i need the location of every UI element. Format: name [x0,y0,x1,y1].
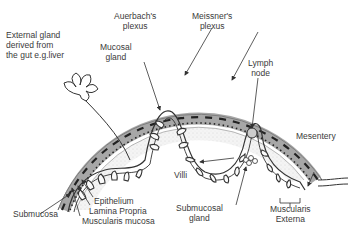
label-mesentery: Mesentery [296,131,336,141]
label-line: Muscularis [270,204,311,214]
label-line: Meissner's [192,11,232,21]
label-villi: Villi [174,170,187,180]
label-line: node [248,68,273,78]
label-submucosal-gland: Submucosal gland [176,203,223,223]
label-line: Lymph [248,58,273,68]
label-muscularis-mucosa: Muscularis mucosa [82,216,155,226]
label-line: Mucosal [100,42,132,52]
label-meissners-plexus: Meissner's plexus [192,11,232,31]
label-external-gland: External gland derived from the gut e.g.… [6,30,64,60]
label-lamina-propria: Lamina Propria [89,206,147,216]
label-muscularis-externa: Muscularis Externa [270,204,311,224]
label-line: the gut e.g.liver [6,50,64,60]
label-line: derived from [6,40,64,50]
lymph-node-shape [247,128,257,138]
label-line: External gland [6,30,64,40]
label-line: plexus [114,21,156,31]
label-line: gland [176,213,223,223]
label-epithelium: Epithelium [94,196,134,206]
label-line: Auerbach's [114,11,156,21]
label-line: Externa [270,214,311,224]
label-auerbachs-plexus: Auerbach's plexus [114,11,156,31]
label-submucosa: Submucosa [13,209,58,219]
label-line: gland [100,52,132,62]
label-line: plexus [192,21,232,31]
label-line: Submucosal [176,203,223,213]
label-lymph-node: Lymph node [248,58,273,78]
label-mucosal-gland: Mucosal gland [100,42,132,62]
